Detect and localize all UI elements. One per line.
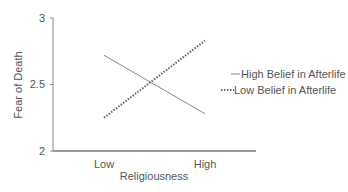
y-tick-label: 2.5 <box>30 78 45 90</box>
y-tick-label: 2 <box>39 145 45 157</box>
series-low-belief-line <box>104 41 205 118</box>
x-axis-label: Religiousness <box>120 170 189 182</box>
x-tick-label: High <box>194 158 217 170</box>
y-tick-label: 3 <box>39 12 45 24</box>
legend-label-high-belief: High Belief in Afterlife <box>241 68 346 80</box>
series-high-belief-line <box>104 55 205 114</box>
x-tick-label: Low <box>94 158 114 170</box>
legend-label-low-belief: Low Belief in Afterlife <box>234 84 336 96</box>
y-axis-label: Fear of Death <box>12 51 24 118</box>
chart: 3 2.5 2 Fear of Death Low High Religious… <box>0 0 348 192</box>
